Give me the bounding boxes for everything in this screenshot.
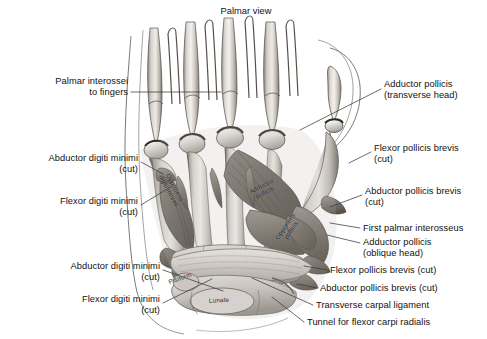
callout-abductor-digiti-minimi-lower: Abductor digiti minimi (cut) bbox=[30, 261, 160, 283]
callout-abductor-pollicis-brevis-cut-lower: Abductor pollicis brevis (cut) bbox=[320, 283, 486, 294]
callout-flexor-pollicis-brevis-cut-upper: Flexor pollicis brevis (cut) bbox=[374, 143, 486, 165]
callout-flexor-digiti-minimi-upper: Flexor digiti minimi (cut) bbox=[18, 196, 138, 218]
callout-adductor-pollicis-transverse-head: Adductor pollicis (transverse head) bbox=[384, 79, 484, 101]
callout-abductor-pollicis-brevis-cut-upper: Abductor pollicis brevis (cut) bbox=[365, 186, 487, 208]
anatomy-figure-palmar-view: Palmar view Opponens digiti minimiAdduct… bbox=[0, 0, 487, 339]
callout-palmar-interossei-to-fingers: Palmar interossei to fingers bbox=[18, 76, 128, 98]
callout-flexor-digiti-minimi-lower: Flexor digiti minimi (cut) bbox=[42, 294, 160, 316]
figure-title: Palmar view bbox=[186, 6, 306, 17]
callout-adductor-pollicis-oblique-head: Adductor pollicis (oblique head) bbox=[363, 237, 463, 259]
callout-flexor-pollicis-brevis-cut-lower: Flexor pollicis brevis (cut) bbox=[330, 265, 486, 276]
callout-abductor-digiti-minimi-upper: Abductor digiti minimi (cut) bbox=[8, 153, 138, 175]
callout-tunnel-for-flexor-carpi-radialis: Tunnel for flexor carpi radialis bbox=[307, 317, 487, 328]
callout-transverse-carpal-ligament: Transverse carpal ligament bbox=[316, 300, 486, 311]
inline-label-lunate-inline: Lunate bbox=[209, 296, 230, 305]
callout-first-palmar-interosseus: First palmar interosseus bbox=[363, 223, 487, 234]
